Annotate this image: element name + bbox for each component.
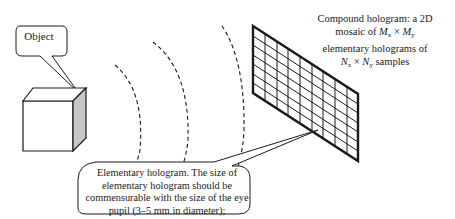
compound-line-3: elementary holograms of <box>300 42 450 55</box>
math-M: M <box>402 26 411 37</box>
object-text: Object <box>24 30 53 42</box>
math-M: M <box>379 26 388 37</box>
compound-mosaic-text: mosaic of <box>335 26 379 37</box>
math-times: × <box>394 26 400 37</box>
compound-line-4: Nx × Ny samples <box>300 55 450 72</box>
elem-line-2: elementary hologram should be <box>82 180 252 193</box>
elem-samples-text: (1000) samples <box>147 217 213 219</box>
object-label: Object <box>13 30 65 43</box>
math-sub-x: x <box>348 61 352 69</box>
compound-line-2: mosaic of Mx × My <box>300 25 450 42</box>
compound-line-1: Compound hologram: a 2D <box>300 12 450 25</box>
elementary-hologram-label: Elementary hologram. The size of element… <box>82 167 252 219</box>
compound-hologram-label: Compound hologram: a 2D mosaic of Mx × M… <box>300 12 450 72</box>
compound-samples-text: samples <box>373 56 409 67</box>
object-cube-icon <box>23 88 86 151</box>
wavefront-arcs <box>115 26 244 180</box>
math-eq: = <box>128 217 139 219</box>
math-N: N <box>341 56 348 67</box>
elem-line-3: commensurable with the size of the eye <box>82 192 252 205</box>
math-O: O <box>139 217 146 219</box>
math-sub-y: y <box>411 31 415 39</box>
elem-line-5: N = O (1000) samples <box>82 217 252 219</box>
elem-line-4: pupil (3–5 mm in diameter); <box>82 205 252 218</box>
math-sub-x: x <box>388 31 392 39</box>
elem-line-1: Elementary hologram. The size of <box>82 167 252 180</box>
math-times: × <box>354 56 360 67</box>
